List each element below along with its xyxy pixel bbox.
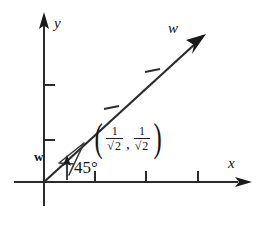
y-axis-label: y (54, 16, 61, 31)
ray-tick (145, 69, 160, 72)
x-axis-label: x (228, 156, 235, 171)
x-numerator: 1 (109, 125, 121, 137)
angle-label: 45° (74, 159, 98, 176)
y-radicand: 2 (141, 138, 149, 153)
open-paren: ( (95, 122, 103, 155)
y-component-fraction: 1 √2 (134, 125, 151, 152)
radical-icon: √ (107, 140, 114, 152)
x-radicand: 2 (114, 138, 122, 153)
diagram-canvas (0, 0, 270, 226)
vector-diagram-figure: y x w w 45° ( 1 √2 , 1 √2 ) (0, 0, 270, 226)
y-numerator: 1 (136, 125, 148, 137)
y-denominator: √2 (134, 140, 151, 152)
close-paren: ) (154, 122, 162, 155)
unit-vector-label-w: w (34, 150, 43, 163)
direction-ray-arrowhead (186, 34, 206, 54)
x-component-fraction: 1 √2 (106, 125, 123, 152)
x-denominator: √2 (106, 140, 123, 152)
coordinate-comma: , (124, 136, 133, 155)
ray-tick (104, 106, 119, 109)
ray-label-w: w (168, 21, 178, 36)
point-coordinate-label: ( 1 √2 , 1 √2 ) (92, 122, 165, 155)
